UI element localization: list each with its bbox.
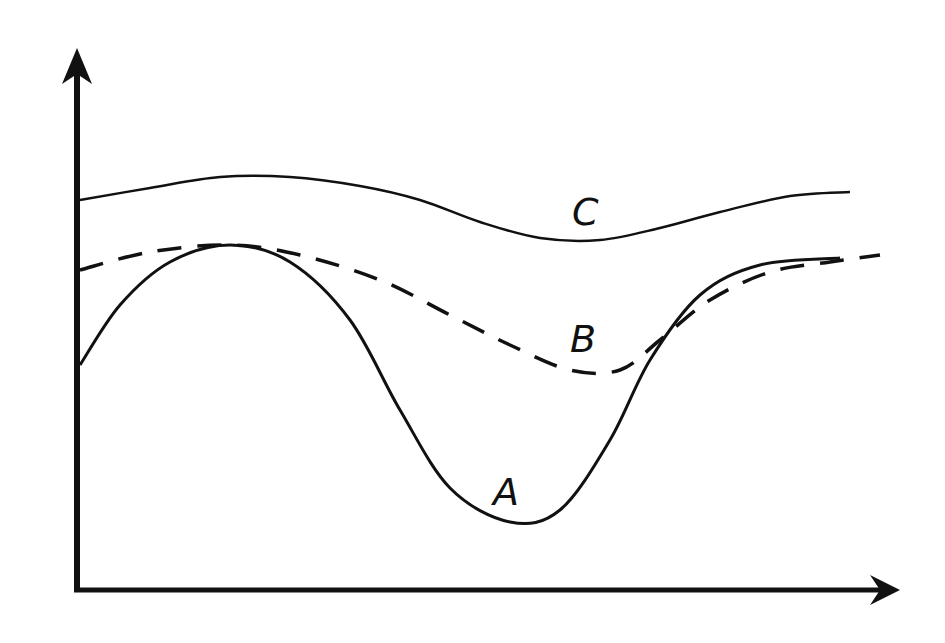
axes: [62, 48, 900, 605]
curve-a: [80, 245, 840, 524]
sketch-chart: C B A: [0, 0, 945, 643]
label-c: C: [572, 190, 599, 234]
label-b: B: [570, 317, 596, 361]
curve-c: [80, 176, 850, 241]
label-a: A: [490, 470, 519, 514]
